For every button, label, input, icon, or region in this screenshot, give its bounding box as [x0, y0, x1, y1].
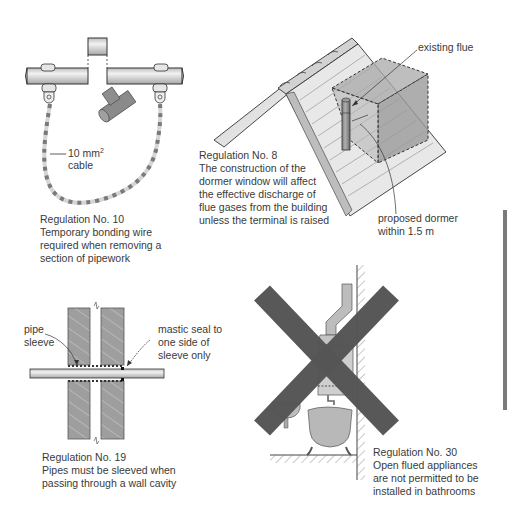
- mastic-seal-line: sleeve only: [158, 349, 222, 362]
- regulation-8-title: Regulation No. 8: [199, 149, 329, 162]
- regulation-19-caption: Regulation No. 19 Pipes must be sleeved …: [42, 451, 176, 490]
- regulation-19-line: Pipes must be sleeved when: [42, 464, 176, 477]
- page-edge-tab: [503, 210, 507, 410]
- regulation-10-line: Temporary bonding wire: [40, 226, 161, 239]
- bonding-wire-illustration: [26, 38, 184, 203]
- regulation-30-line: installed in bathrooms: [373, 485, 479, 498]
- regulation-8-line: flue gases from the building: [199, 201, 329, 214]
- regulation-8-line: The construction of the: [199, 162, 329, 175]
- regulation-30-line: Open flued appliances: [373, 459, 479, 472]
- bathroom-prohibited-illustration: [262, 265, 391, 480]
- proposed-dormer-line: proposed dormer: [378, 212, 458, 225]
- proposed-dormer-distance: within 1.5 m: [378, 225, 458, 238]
- pipe-sleeve-line: sleeve: [24, 336, 54, 349]
- regulation-10-line: section of pipework: [40, 252, 161, 265]
- pipe-sleeve-line: pipe: [24, 323, 54, 336]
- regulation-19-line: passing through a wall cavity: [42, 477, 176, 490]
- regulation-10-caption: Regulation No. 10 Temporary bonding wire…: [40, 213, 161, 265]
- cable-label: cable: [68, 159, 93, 172]
- proposed-dormer-label: proposed dormer within 1.5 m: [378, 212, 458, 238]
- pipe-sleeve-label: pipe sleeve: [24, 323, 54, 349]
- regulation-8-line: dormer window will affect: [199, 175, 329, 188]
- regulation-8-line: unless the terminal is raised: [199, 214, 329, 227]
- regulation-8-line: the effective discharge of: [199, 188, 329, 201]
- mastic-seal-line: mastic seal to: [158, 323, 222, 336]
- regulation-19-title: Regulation No. 19: [42, 451, 176, 464]
- regulation-30-caption: Regulation No. 30 Open flued appliances …: [373, 446, 479, 498]
- regulation-10-line: required when removing a: [40, 239, 161, 252]
- regulation-10-title: Regulation No. 10: [40, 213, 161, 226]
- mastic-seal-label: mastic seal to one side of sleeve only: [158, 323, 222, 362]
- mastic-seal-line: one side of: [158, 336, 222, 349]
- existing-flue-label: existing flue: [418, 41, 473, 54]
- regulation-30-line: are not permitted to be: [373, 472, 479, 485]
- regulation-8-caption: Regulation No. 8 The construction of the…: [199, 149, 329, 227]
- regulation-30-title: Regulation No. 30: [373, 446, 479, 459]
